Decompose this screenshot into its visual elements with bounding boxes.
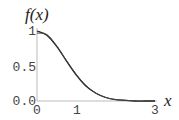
y-axis-title: f(x) [25,5,49,24]
x-tick-1: 1 [73,103,81,118]
curve-b [37,33,155,101]
x-tick-0: 0 [33,103,41,118]
y-tick-1: 1 [28,24,36,39]
y-tick-0-5: 0.5 [13,60,36,75]
curve-a [37,31,155,101]
function-plot: 1 0.5 0.0 0 1 3 f(x) x [0,0,179,120]
x-tick-3: 3 [151,103,159,118]
x-axis-title: x [163,91,172,110]
